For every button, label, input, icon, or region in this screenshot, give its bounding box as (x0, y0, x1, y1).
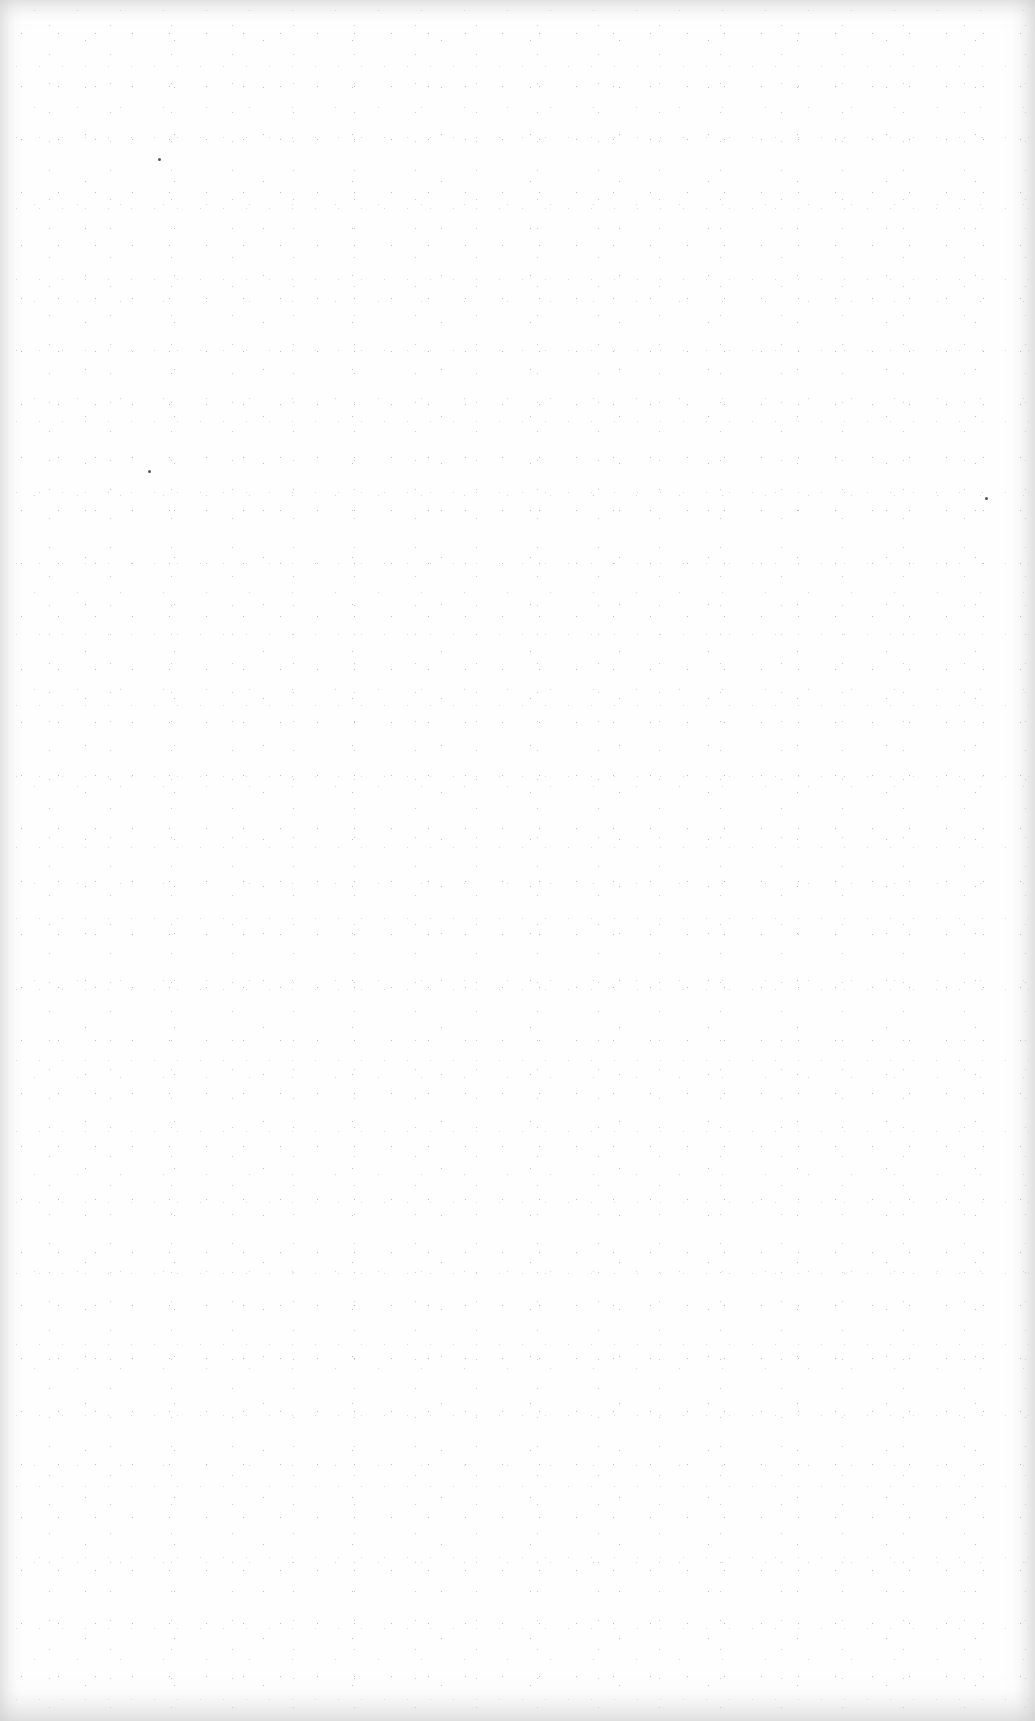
scan-edge-shadow (0, 0, 1035, 1721)
speck (158, 158, 161, 161)
speck (985, 497, 988, 500)
paper-speckle-texture (0, 0, 1035, 1721)
blank-page (0, 0, 1035, 1721)
speck (148, 470, 151, 473)
